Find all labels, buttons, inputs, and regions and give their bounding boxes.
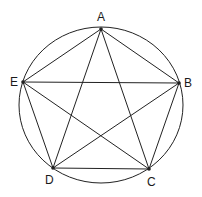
edge-be bbox=[23, 82, 179, 83]
edge-ce bbox=[23, 82, 149, 169]
edge-ac bbox=[101, 29, 149, 169]
vertex-points bbox=[21, 27, 181, 171]
vertex-point-a bbox=[99, 27, 103, 31]
edges-group bbox=[23, 29, 179, 169]
vertex-point-b bbox=[177, 81, 181, 85]
vertex-point-e bbox=[21, 80, 25, 84]
edge-ad bbox=[53, 29, 101, 168]
circumscribed-circle bbox=[19, 27, 183, 183]
pentagram-diagram bbox=[0, 0, 202, 197]
vertex-point-d bbox=[51, 166, 55, 170]
vertex-label-a: A bbox=[97, 11, 105, 23]
edge-ab bbox=[101, 29, 179, 83]
vertex-label-e: E bbox=[10, 76, 18, 88]
vertex-label-b: B bbox=[184, 77, 192, 89]
vertex-point-c bbox=[147, 167, 151, 171]
edge-ea bbox=[23, 29, 101, 82]
vertex-label-c: C bbox=[147, 176, 156, 188]
edge-bd bbox=[53, 83, 179, 168]
vertex-label-d: D bbox=[45, 174, 54, 186]
edge-bc bbox=[149, 83, 179, 169]
edge-cd bbox=[53, 168, 149, 169]
